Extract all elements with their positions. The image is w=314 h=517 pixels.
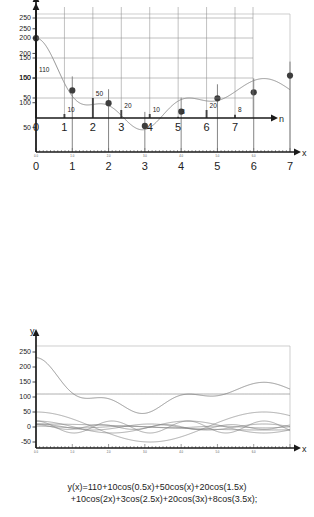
formula-caption: y(x)=110+10cos(0.5x)+50cos(x)+20cos(1.5x… [0, 481, 314, 505]
n-tick-label-0: 0 [33, 121, 39, 133]
x-minor-label-6: 6.0 [252, 154, 256, 158]
bar-value-label-7: 8 [238, 106, 242, 113]
n-tick-label-1: 1 [61, 121, 67, 133]
y-tick-label-3: 200 [19, 34, 31, 41]
y-tick-label-4: 150 [19, 378, 31, 385]
n-tick-label-2: 2 [90, 121, 96, 133]
panel-bottom-components: -500501001502002500.01.02.03.04.05.06.0x… [0, 330, 314, 478]
x-minor-label-0: 0.0 [34, 450, 38, 454]
y-tick-label-4: 250 [19, 14, 31, 21]
x-minor-label-4: 4.0 [179, 154, 183, 158]
x-minor-label-5: 5.0 [215, 154, 219, 158]
y-tick-label-1: 100 [19, 74, 31, 81]
n-axis-arrow [271, 115, 278, 122]
n-tick-label-3: 3 [118, 121, 124, 133]
bar-value-label-3: 20 [124, 102, 132, 109]
x-major-label-3: 3 [142, 160, 148, 172]
x-major-label-2: 2 [106, 160, 112, 172]
x-major-label-4: 4 [178, 160, 184, 172]
x-major-label-0: 0 [33, 160, 39, 172]
series-sum-curve [36, 358, 290, 414]
x-minor-label-2: 2.0 [107, 154, 111, 158]
x-minor-label-1: 1.0 [70, 450, 74, 454]
y-tick-label-3: 100 [19, 393, 31, 400]
x-axis-name: x [302, 444, 307, 454]
formula-line-2: +10cos(2x)+3cos(2.5x)+20cos(3x)+8cos(3.5… [0, 493, 314, 505]
x-minor-label-5: 5.0 [215, 450, 219, 454]
y-tick-label-6: 250 [19, 348, 31, 355]
n-tick-label-7: 7 [232, 121, 238, 133]
x-minor-label-6: 6.0 [252, 450, 256, 454]
bar-value-label-4: 10 [153, 106, 161, 113]
x-major-label-6: 6 [251, 160, 257, 172]
bar-value-label-2: 50 [96, 90, 104, 97]
x-major-label-5: 5 [214, 160, 220, 172]
n-tick-label-6: 6 [204, 121, 210, 133]
bar-value-label-1: 10 [67, 106, 75, 113]
x-minor-label-4: 4.0 [179, 450, 183, 454]
n-axis-name: n [279, 114, 284, 124]
x-minor-label-0: 0.0 [34, 154, 38, 158]
series-component-4 [36, 421, 290, 433]
y-axis-name: y [30, 326, 35, 336]
figure-root: 501001502002500.01.02.03.04.05.06.001234… [0, 0, 314, 517]
x-major-label-7: 7 [287, 160, 293, 172]
x-minor-label-1: 1.0 [70, 154, 74, 158]
y-tick-label-1: 0 [27, 423, 31, 430]
bottom-chart-svg: -500501001502002500.01.02.03.04.05.06.0x… [0, 330, 314, 478]
x-major-label-1: 1 [69, 160, 75, 172]
x-minor-label-3: 3.0 [143, 450, 147, 454]
bar-value-label-0: 110 [39, 66, 50, 73]
bar-value-label-6: 20 [210, 102, 218, 109]
n-tick-label-4: 4 [147, 121, 153, 133]
x-axis-arrow [294, 445, 301, 452]
y-tick-label-0: -50 [21, 438, 31, 445]
y-tick-label-5: 200 [19, 363, 31, 370]
y-axis-arrow [33, 0, 40, 2]
x-minor-label-2: 2.0 [107, 450, 111, 454]
bar-value-label-5: 3 [181, 108, 185, 115]
y-tick-label-2: 150 [19, 54, 31, 61]
n-tick-label-5: 5 [175, 121, 181, 133]
formula-line-1: y(x)=110+10cos(0.5x)+50cos(x)+20cos(1.5x… [0, 481, 314, 493]
middle-chart-svg: 5010015020025011010502010320801234567n [0, 0, 314, 150]
x-minor-label-3: 3.0 [143, 154, 147, 158]
panel-middle-spectrum: 5010015020025011010502010320801234567n [0, 0, 314, 150]
y-tick-label-0: 50 [23, 94, 31, 101]
y-tick-label-2: 50 [23, 408, 31, 415]
